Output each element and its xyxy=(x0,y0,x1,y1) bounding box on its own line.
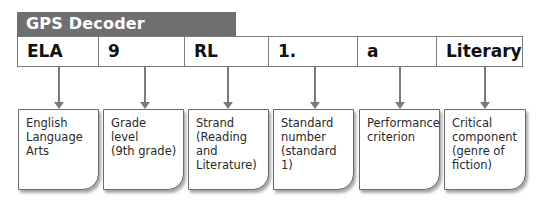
desc-grade: Grade level (9th grade) xyxy=(103,109,184,190)
code-row: ELA 9 RL 1. a Literary xyxy=(17,36,523,67)
code-critical-component: Literary xyxy=(437,37,521,66)
desc-performance-criterion: Performance criterion xyxy=(359,109,440,190)
arrow-down-icon xyxy=(58,67,60,103)
code-standard-number: 1. xyxy=(269,37,358,66)
desc-critical-component: Critical component (genre of fiction) xyxy=(444,109,526,190)
code-grade: 9 xyxy=(99,37,185,66)
code-strand: RL xyxy=(185,37,269,66)
desc-standard-number: Standard number (standard 1) xyxy=(273,109,354,190)
arrow-down-icon xyxy=(314,67,316,103)
desc-strand: Strand (Reading and Literature) xyxy=(188,109,269,190)
arrow-down-icon xyxy=(144,67,146,103)
arrow-down-icon xyxy=(399,67,401,103)
desc-subject: English Language Arts xyxy=(18,109,99,190)
arrow-down-icon xyxy=(227,67,229,103)
gps-decoder-header: GPS Decoder xyxy=(17,12,236,36)
arrow-down-icon xyxy=(484,67,486,103)
code-performance-criterion: a xyxy=(358,37,437,66)
code-subject: ELA xyxy=(18,37,99,66)
